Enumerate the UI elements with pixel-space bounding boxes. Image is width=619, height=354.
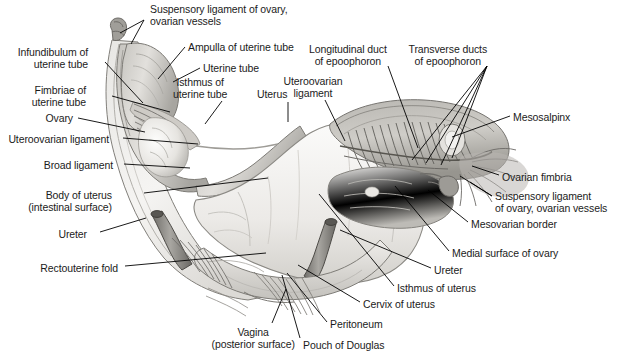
- label-line: of epoophoron: [409, 56, 488, 68]
- label-line: Cervix of uterus: [363, 299, 435, 311]
- label-ampulla-of-uterine-tube: Ampulla of uterine tube: [188, 42, 294, 54]
- label-mesovarian-border: Mesovarian border: [471, 219, 557, 231]
- label-longitudinal-duct-of-epoophoron: Longitudinal ductof epoophoron: [309, 44, 387, 67]
- label-line: uterine tube: [173, 89, 227, 101]
- label-line: Isthmus of: [173, 77, 227, 89]
- label-line: Mesovarian border: [471, 219, 557, 231]
- label-rectouterine-fold: Rectouterine fold: [40, 263, 118, 275]
- label-body-of-uterus: Body of uterus(intestinal surface): [28, 190, 112, 213]
- label-line: Body of uterus: [28, 190, 112, 202]
- label-line: Peritoneum: [330, 319, 383, 331]
- leader-ureter-left: [100, 218, 146, 232]
- label-broad-ligament: Broad ligament: [44, 160, 113, 172]
- label-line: Ovarian fimbria: [502, 172, 572, 184]
- label-line: Infundibulum of: [18, 47, 88, 59]
- label-uterine-tube: Uterine tube: [203, 63, 259, 75]
- label-ureter-left: Ureter: [58, 229, 87, 241]
- label-peritoneum: Peritoneum: [330, 319, 383, 331]
- label-line: Ureter: [58, 229, 87, 241]
- label-line: ligament: [284, 88, 343, 100]
- label-line: (posterior surface): [212, 339, 295, 351]
- label-line: Longitudinal duct: [309, 44, 387, 56]
- label-line: Rectouterine fold: [40, 263, 118, 275]
- label-line: Fimbriae of: [32, 85, 86, 97]
- label-line: Isthmus of uterus: [397, 283, 476, 295]
- label-isthmus-of-uterine-tube: Isthmus ofuterine tube: [173, 77, 227, 100]
- label-ureter-right: Ureter: [434, 265, 463, 277]
- label-line: Vagina: [212, 327, 295, 339]
- label-ovarian-fimbria: Ovarian fimbria: [502, 172, 572, 184]
- label-line: Uterine tube: [203, 63, 259, 75]
- label-line: Pouch of Douglas: [303, 340, 384, 352]
- anatomy-figure: Suspensory ligament of ovary,ovarian ves…: [0, 0, 619, 354]
- label-fimbriae-of-uterine-tube: Fimbriae ofuterine tube: [32, 85, 86, 108]
- label-line: Uteroovarian: [284, 76, 343, 88]
- label-line: (intestinal surface): [28, 202, 112, 214]
- label-line: Medial surface of ovary: [452, 248, 558, 260]
- label-line: uterine tube: [32, 97, 86, 109]
- suspensory-ligament-stub: [110, 18, 126, 41]
- label-line: Ampulla of uterine tube: [188, 42, 294, 54]
- leader-isthmus-tube: [205, 101, 222, 124]
- label-line: of epoophoron: [309, 56, 387, 68]
- label-line: Transverse ducts: [409, 44, 488, 56]
- label-line: Suspensory ligament of ovary,: [150, 4, 288, 16]
- label-line: of ovary, ovarian vessels: [495, 203, 607, 215]
- label-line: Suspensory ligament: [495, 191, 607, 203]
- label-transverse-ducts-of-epoophoron: Transverse ductsof epoophoron: [409, 44, 488, 67]
- label-line: Mesosalpinx: [513, 112, 570, 124]
- label-line: Ureter: [434, 265, 463, 277]
- label-medial-surface-of-ovary: Medial surface of ovary: [452, 248, 558, 260]
- label-uteroovarian-ligament-right: Uteroovarianligament: [284, 76, 343, 99]
- label-line: ovarian vessels: [150, 16, 288, 28]
- uteroovarian-ligament-shape: [196, 144, 278, 149]
- label-mesosalpinx: Mesosalpinx: [513, 112, 570, 124]
- label-line: Broad ligament: [44, 160, 113, 172]
- label-cervix-of-uterus: Cervix of uterus: [363, 299, 435, 311]
- label-vagina: Vagina(posterior surface): [212, 327, 295, 350]
- label-ovary: Ovary: [45, 113, 73, 125]
- label-line: Uteroovarian ligament: [8, 134, 109, 146]
- label-suspensory-ligament-of-ovary-top: Suspensory ligament of ovary,ovarian ves…: [150, 4, 288, 27]
- label-suspensory-ligament-of-ovary-right: Suspensory ligamentof ovary, ovarian ves…: [495, 191, 607, 214]
- label-isthmus-of-uterus: Isthmus of uterus: [397, 283, 476, 295]
- label-infundibulum-of-uterine-tube: Infundibulum ofuterine tube: [18, 47, 88, 70]
- label-pouch-of-douglas: Pouch of Douglas: [303, 340, 384, 352]
- label-uteroovarian-ligament-left: Uteroovarian ligament: [8, 134, 109, 146]
- label-line: Ovary: [45, 113, 73, 125]
- label-line: uterine tube: [18, 59, 88, 71]
